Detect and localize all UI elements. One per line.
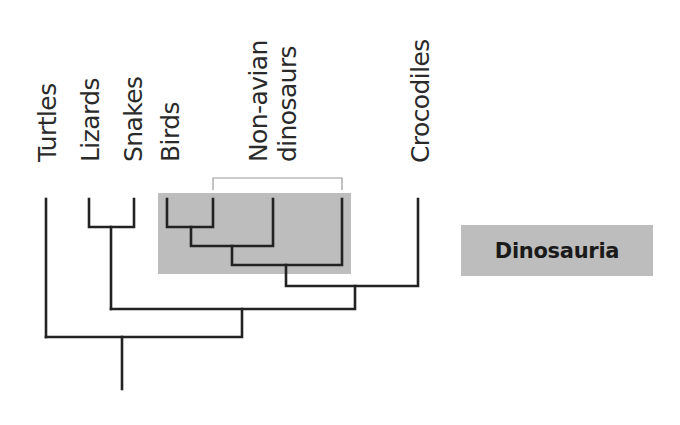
dinosauria-legend: Dinosauria — [461, 225, 653, 276]
label-turtles: Turtles — [33, 83, 62, 163]
branch-lizards-snakes — [89, 199, 134, 227]
branch-root-node — [46, 309, 242, 337]
label-non-avian-line1: Non-avian — [244, 40, 273, 162]
branch-diapsid-node — [111, 286, 355, 309]
label-non-avian-line2: dinosaurs — [273, 46, 302, 162]
label-crocodiles: Crocodiles — [406, 39, 435, 163]
label-birds: Birds — [156, 102, 185, 162]
cladogram-diagram: Turtles Lizards Snakes Birds Non-avian d… — [0, 0, 680, 425]
non-avian-bracket — [213, 178, 342, 190]
label-snakes: Snakes — [119, 77, 148, 162]
dinosauria-label: Dinosauria — [495, 239, 619, 263]
dinosauria-highlight-box — [158, 193, 351, 274]
label-lizards: Lizards — [76, 78, 105, 162]
